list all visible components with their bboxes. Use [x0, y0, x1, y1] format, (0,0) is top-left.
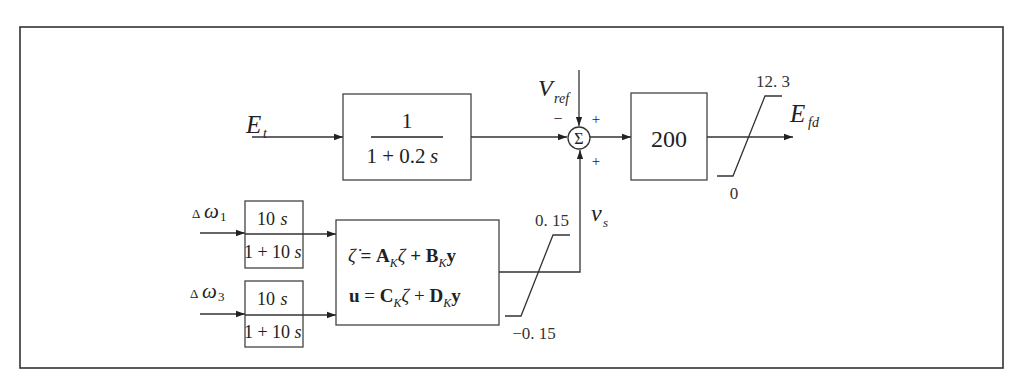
svg-text:ref: ref: [554, 91, 571, 106]
svg-text:fd: fd: [808, 115, 820, 130]
summing-junction: Σ − + +: [553, 110, 600, 169]
svg-text:s: s: [294, 322, 301, 342]
excitation-system-block-diagram: E t 1 1 + 0.2 s V ref Σ − + + 200 12. 3 …: [0, 0, 1026, 382]
svg-text:s: s: [603, 215, 608, 230]
efd-output-label: E fd: [789, 100, 820, 130]
svg-text:3: 3: [218, 289, 225, 304]
controller-block: ζ̇ = AKζ + BKy u = CKζ + DKy: [336, 220, 499, 325]
svg-text:Δ: Δ: [192, 206, 200, 221]
svg-text:1 + 10: 1 + 10: [244, 322, 290, 342]
dw1-input-label: Δ ω 1: [192, 199, 227, 224]
svg-text:s: s: [280, 209, 287, 229]
svg-text:ω: ω: [202, 279, 217, 303]
pss-upper-limit-label: 0. 15: [535, 211, 569, 230]
svg-text:s: s: [294, 242, 301, 262]
svg-text:s: s: [280, 289, 287, 309]
lower-limit-label: 0: [730, 184, 739, 203]
vref-input-label: V ref: [538, 75, 571, 106]
svg-text:1 + 10: 1 + 10: [244, 242, 290, 262]
svg-text:E: E: [789, 100, 805, 127]
minus-sign: −: [553, 110, 562, 127]
plus-sign-top: +: [592, 111, 600, 127]
vs-signal-label: v s: [591, 200, 608, 230]
svg-text:10: 10: [257, 209, 275, 229]
svg-text:1: 1: [220, 209, 227, 224]
diagram-frame: [20, 27, 1003, 368]
svg-text:Δ: Δ: [190, 286, 198, 301]
svg-text:10: 10: [257, 289, 275, 309]
pss-lower-limit-label: −0. 15: [512, 324, 556, 343]
svg-text:1 + 0.2: 1 + 0.2: [366, 144, 425, 168]
svg-text:v: v: [591, 200, 602, 226]
svg-text:ω: ω: [204, 199, 219, 223]
svg-text:t: t: [263, 126, 268, 141]
filter-block: 1 1 + 0.2 s: [343, 94, 471, 180]
upper-limit-label: 12. 3: [756, 72, 790, 91]
svg-text:1: 1: [402, 108, 413, 133]
svg-text:s: s: [430, 144, 438, 168]
svg-text:Σ: Σ: [574, 130, 583, 147]
svg-text:V: V: [538, 75, 555, 101]
plus-sign-bottom: +: [592, 153, 600, 169]
svg-text:200: 200: [651, 126, 687, 152]
gain-block: 200: [631, 93, 707, 180]
washout-block-3: 10 s 1 + 10 s: [244, 281, 303, 347]
svg-text:E: E: [245, 111, 261, 138]
pss-limiter: 0. 15 −0. 15: [505, 211, 570, 343]
dw3-input-label: Δ ω 3: [190, 279, 225, 304]
